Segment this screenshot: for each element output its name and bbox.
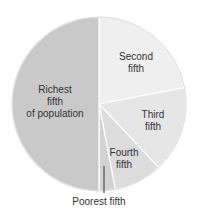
slice-label-richest-line3: of population [26, 108, 83, 119]
pie-svg: Second fifth Third fifth Fourth fifth Ri… [0, 0, 198, 219]
slice-label-third-line2: fifth [145, 121, 161, 132]
slice-label-second-line2: fifth [128, 63, 144, 74]
pie-slices [12, 17, 186, 191]
slice-label-third-line1: Third [142, 109, 165, 120]
slice-label-richest-line2: fifth [47, 96, 63, 107]
slice-label-second-line1: Second [119, 51, 153, 62]
pie-chart: Second fifth Third fifth Fourth fifth Ri… [0, 0, 198, 219]
poorest-fifth-label: Poorest fifth [0, 196, 198, 207]
slice-label-fourth-line2: fifth [116, 159, 132, 170]
slice-label-richest-line1: Richest [38, 84, 72, 95]
slice-label-fourth-line1: Fourth [110, 147, 139, 158]
